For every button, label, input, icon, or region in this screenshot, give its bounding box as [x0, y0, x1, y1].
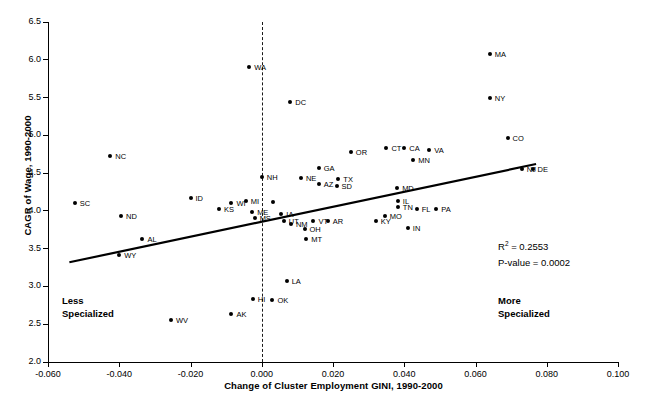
- data-point: [506, 136, 510, 140]
- data-point: [383, 214, 387, 218]
- data-point: [244, 199, 248, 203]
- data-point: [317, 182, 321, 186]
- x-tick-label: -0.040: [95, 369, 143, 380]
- data-point-label: OK: [277, 296, 288, 305]
- x-tick-mark: [191, 362, 192, 367]
- data-point-label: AL: [147, 234, 156, 243]
- more-specialized-note: More Specialized: [498, 294, 550, 320]
- regression-statistics: R2 = 0.2553 P-value = 0.0002: [498, 236, 570, 271]
- x-axis-title: Change of Cluster Employment GINI, 1990-…: [48, 380, 619, 391]
- data-point: [406, 226, 410, 230]
- data-point-label: AZ: [324, 179, 334, 188]
- data-point-label: WV: [176, 316, 188, 325]
- data-point: [285, 279, 289, 283]
- data-point: [317, 166, 321, 170]
- data-point-label: KS: [224, 205, 234, 214]
- data-point-label: FL: [422, 205, 431, 214]
- data-point-label: LA: [292, 277, 301, 286]
- data-point-label: NE: [306, 174, 316, 183]
- data-point-label: TN: [403, 203, 413, 212]
- data-point: [253, 216, 257, 220]
- data-point-label: MT: [311, 234, 322, 243]
- x-tick-label: 0.080: [523, 369, 571, 380]
- x-tick-label: 0.100: [594, 369, 642, 380]
- data-point-label: DC: [295, 98, 306, 107]
- less-specialized-note: Less Specialized: [62, 294, 114, 320]
- data-point: [488, 52, 492, 56]
- data-point-label: MS: [260, 213, 271, 222]
- data-point-label: OH: [310, 225, 321, 234]
- x-tick-label: -0.020: [167, 369, 215, 380]
- data-point-label: MI: [251, 197, 259, 206]
- data-point-label: WA: [254, 62, 266, 71]
- data-point: [349, 150, 353, 154]
- p-value-text: P-value = 0.0002: [498, 255, 570, 271]
- y-tick-label: 6.5: [28, 16, 41, 27]
- data-point-label: MN: [418, 156, 430, 165]
- data-point: [396, 205, 400, 209]
- data-point-label: IN: [413, 223, 421, 232]
- x-tick-label: 0.000: [238, 369, 286, 380]
- x-tick-label: -0.060: [24, 369, 72, 380]
- more-specialized-line2: Specialized: [498, 307, 550, 320]
- data-point-label: WY: [124, 251, 136, 260]
- data-point-label: DE: [538, 165, 548, 174]
- data-point-label: GA: [324, 163, 335, 172]
- x-tick-mark: [618, 362, 619, 367]
- data-point-label: MA: [495, 49, 506, 58]
- data-point: [335, 184, 339, 188]
- x-tick-mark: [48, 362, 49, 367]
- data-point: [260, 175, 264, 179]
- data-point-label: CO: [513, 133, 524, 142]
- data-point-label: CT: [391, 144, 401, 153]
- x-tick-mark: [119, 362, 120, 367]
- data-point: [189, 196, 193, 200]
- x-tick-mark: [262, 362, 263, 367]
- y-tick-label: 2.5: [28, 318, 41, 329]
- data-point-label: PA: [441, 204, 450, 213]
- data-point-label: ID: [196, 194, 204, 203]
- y-axis-title: CAGR of Wage, 1990-2000: [22, 56, 33, 296]
- data-point: [531, 167, 535, 171]
- data-point-label: ND: [126, 212, 137, 221]
- data-point: [247, 65, 251, 69]
- y-tick-label: 2.0: [28, 356, 41, 367]
- data-point-label: HI: [258, 295, 266, 304]
- more-specialized-line1: More: [498, 294, 550, 307]
- x-tick-mark: [547, 362, 548, 367]
- data-point-label: AR: [333, 217, 343, 226]
- data-point: [488, 96, 492, 100]
- data-point-label: CA: [409, 144, 419, 153]
- data-point-label: OR: [356, 147, 367, 156]
- data-point: [303, 227, 307, 231]
- data-point-label: TX: [343, 175, 353, 184]
- x-tick-label: 0.060: [452, 369, 500, 380]
- data-point-label: AK: [236, 310, 246, 319]
- data-point: [434, 207, 438, 211]
- r-squared-text: R2 = 0.2553: [498, 236, 570, 255]
- data-point-label: SC: [80, 199, 90, 208]
- less-specialized-line2: Specialized: [62, 307, 114, 320]
- x-tick-mark: [404, 362, 405, 367]
- data-point-label: MD: [402, 184, 414, 193]
- data-point-label: MO: [390, 212, 402, 221]
- r-squared-value: = 0.2553: [509, 241, 549, 252]
- x-tick-label: 0.040: [380, 369, 428, 380]
- data-point-label: VA: [434, 146, 443, 155]
- data-point-label: NC: [115, 151, 126, 160]
- data-point-label: NH: [267, 172, 278, 181]
- data-point: [250, 210, 254, 214]
- less-specialized-line1: Less: [62, 294, 114, 307]
- x-tick-mark: [476, 362, 477, 367]
- x-tick-label: 0.020: [309, 369, 357, 380]
- x-tick-mark: [333, 362, 334, 367]
- data-point-label: NY: [495, 93, 505, 102]
- data-point: [396, 199, 400, 203]
- scatter-plot-figure: 6.56.05.55.04.54.03.53.02.52.0 -0.060-0.…: [0, 0, 651, 404]
- data-point: [271, 200, 275, 204]
- data-point: [520, 167, 524, 171]
